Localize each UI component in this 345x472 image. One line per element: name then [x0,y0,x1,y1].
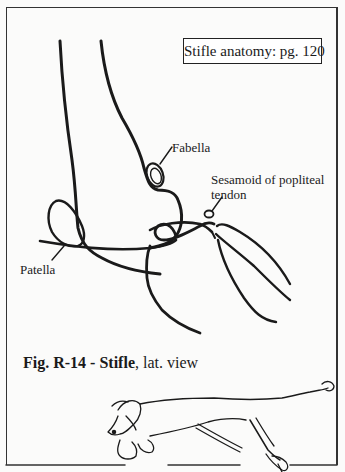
caption-view: , lat. view [135,354,198,371]
sesamoid-label-line2: tendon [211,187,246,202]
caption-title: Fig. R-14 - Stifle [23,354,135,371]
fabella-label: Fabella [172,140,210,155]
reference-box: Stifle anatomy: pg. 120 [183,38,322,64]
sesamoid-label-line1: Sesamoid of popliteal [211,172,324,187]
figure-page: Stifle anatomy: pg. 120 Fabella Sesamoid… [0,0,345,472]
stifle-illustration [0,0,345,472]
figure-caption: Fig. R-14 - Stifle, lat. view [23,354,198,372]
patella-label: Patella [20,262,55,277]
